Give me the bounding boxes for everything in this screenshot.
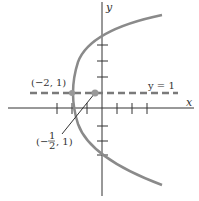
focus-point [92, 90, 99, 97]
vertex-point [69, 90, 75, 96]
vertex-label: (−2, 1) [31, 77, 66, 88]
line-label: y = 1 [147, 80, 175, 91]
svg-text:, 1): , 1) [56, 136, 73, 147]
svg-text:(−: (− [36, 136, 48, 147]
focus-label: (− 1 2 , 1) [36, 130, 73, 151]
parabola-diagram: y x y = 1 (−2, 1) (− 1 2 , 1) [0, 0, 199, 201]
y-axis-label: y [105, 1, 113, 14]
parabola-curve [73, 15, 162, 185]
svg-text:2: 2 [49, 140, 55, 151]
x-axis-label: x [186, 96, 193, 109]
